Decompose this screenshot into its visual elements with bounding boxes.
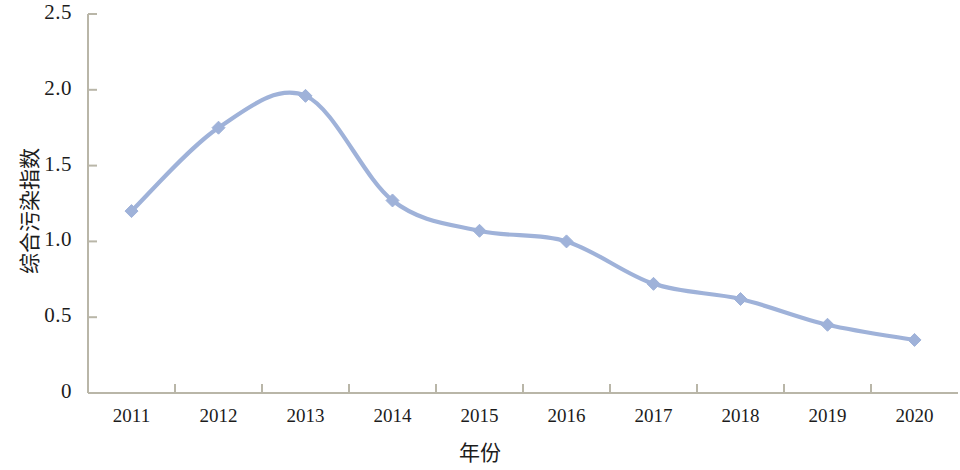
data-point-marker-5 <box>560 235 573 248</box>
series-line-0 <box>132 93 915 340</box>
data-point-marker-4 <box>473 224 486 237</box>
data-point-marker-7 <box>734 293 747 306</box>
data-point-marker-9 <box>908 333 921 346</box>
data-point-marker-6 <box>647 277 660 290</box>
axes <box>88 14 958 393</box>
data-point-marker-8 <box>821 318 834 331</box>
data-series <box>125 89 921 346</box>
plot-area <box>0 0 960 470</box>
line-chart: 综合污染指数 年份 00.51.01.52.02.5 2011201220132… <box>0 0 960 470</box>
